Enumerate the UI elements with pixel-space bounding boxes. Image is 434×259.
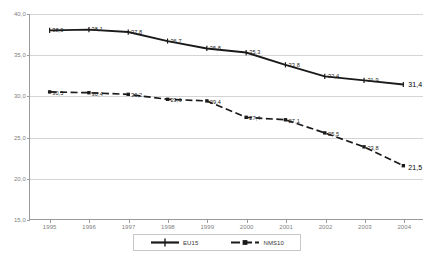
- x-tick: [247, 219, 248, 223]
- x-axis-label: 1996: [82, 224, 96, 230]
- x-tick: [89, 219, 90, 223]
- line-chart: 40,035,030,025,020,015,0 199519961997199…: [0, 0, 434, 259]
- y-tick: [27, 220, 30, 221]
- data-point-value: 27,1: [289, 118, 300, 124]
- x-tick: [365, 219, 366, 223]
- series-layer: [30, 14, 423, 219]
- legend-label-nms10: NMS10: [263, 240, 284, 246]
- data-point-marker: [166, 98, 169, 101]
- data-point-value: 36,7: [170, 38, 181, 44]
- x-axis-label: 1995: [43, 224, 57, 230]
- legend-label-eu15: EU15: [183, 240, 198, 246]
- chart-legend: EU15 NMS10: [133, 234, 301, 251]
- y-axis-label: 15,0: [14, 217, 26, 223]
- x-axis-label: 1999: [200, 224, 214, 230]
- x-tick: [129, 219, 130, 223]
- data-point-marker: [244, 116, 247, 119]
- data-point-value: 33,8: [289, 62, 300, 68]
- data-point-value: 25,5: [328, 131, 339, 137]
- data-point-marker: [362, 145, 365, 148]
- y-axis-label: 25,0: [14, 135, 26, 141]
- data-point-value: 31,4: [408, 81, 422, 88]
- data-point-value: 38,0: [52, 27, 63, 33]
- x-axis-label: 2002: [319, 224, 333, 230]
- x-tick: [286, 219, 287, 223]
- data-point-marker: [284, 118, 287, 121]
- data-point-value: 35,8: [210, 45, 221, 51]
- data-point-value: 37,8: [131, 29, 142, 35]
- data-point-marker: [402, 164, 405, 167]
- x-tick: [404, 219, 405, 223]
- y-axis-label: 35,0: [14, 52, 26, 58]
- data-point-value: 29,6: [170, 97, 181, 103]
- plot-area: 40,035,030,025,020,015,0 199519961997199…: [29, 14, 423, 220]
- data-point-marker: [87, 91, 90, 94]
- data-point-marker: [205, 99, 208, 102]
- data-point-value: 29,4: [210, 99, 221, 105]
- legend-swatch-dashed-icon: [230, 238, 260, 247]
- data-point-value: 35,3: [249, 49, 260, 55]
- x-axis-label: 2000: [240, 224, 254, 230]
- data-point-value: 30,4: [92, 91, 103, 97]
- x-tick: [168, 219, 169, 223]
- data-point-value: 30,5: [52, 90, 63, 96]
- x-tick: [326, 219, 327, 223]
- data-point-value: 31,9: [367, 77, 378, 83]
- series-line-nms10: [50, 92, 404, 166]
- x-tick: [207, 219, 208, 223]
- legend-item-eu15[interactable]: EU15: [150, 238, 198, 247]
- data-point-marker: [323, 131, 326, 134]
- x-axis-label: 2004: [397, 224, 411, 230]
- x-axis-label: 1997: [122, 224, 136, 230]
- data-point-value: 32,4: [328, 73, 339, 79]
- y-axis-label: 20,0: [14, 176, 26, 182]
- data-point-value: 23,8: [367, 145, 378, 151]
- data-point-value: 21,5: [408, 163, 422, 170]
- data-point-marker: [48, 90, 51, 93]
- y-axis-label: 30,0: [14, 93, 26, 99]
- x-axis-label: 1998: [161, 224, 175, 230]
- y-axis-label: 40,0: [14, 11, 26, 17]
- legend-swatch-solid-icon: [150, 238, 180, 247]
- x-axis-label: 2003: [358, 224, 372, 230]
- data-point-value: 38,1: [92, 26, 103, 32]
- x-axis-label: 2001: [279, 224, 293, 230]
- data-point-value: 30,2: [131, 92, 142, 98]
- series-line-eu15: [50, 30, 404, 85]
- x-tick: [50, 219, 51, 223]
- data-point-value: 27,4: [249, 115, 260, 121]
- data-point-marker: [127, 93, 130, 96]
- legend-item-nms10[interactable]: NMS10: [230, 238, 284, 247]
